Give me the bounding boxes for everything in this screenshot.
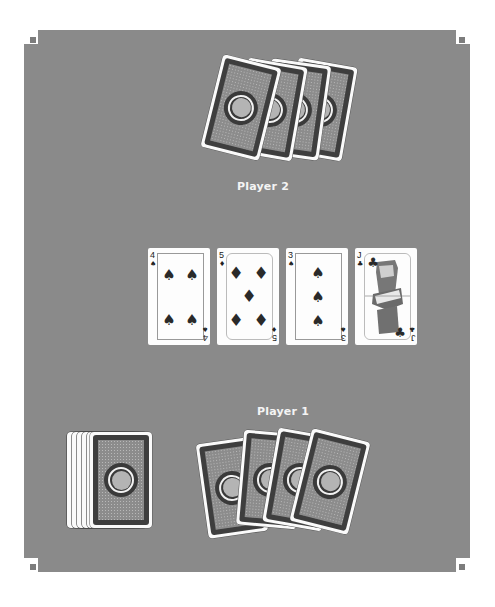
player1-label: Player 1 — [257, 405, 309, 418]
card-rank: 3 — [288, 251, 293, 260]
deck-top-card[interactable] — [90, 432, 152, 528]
table-corner-tr — [459, 37, 465, 43]
spade-icon: ♠ — [202, 325, 208, 332]
community-card-3[interactable]: 3 ♠ ♠ ♠ ♠ 3 ♠ — [286, 248, 348, 345]
diamond-icon: ♦ — [253, 313, 268, 328]
card-rank: 4 — [203, 333, 208, 342]
club-icon: ♣ — [394, 325, 406, 340]
card-rank: J — [411, 333, 416, 342]
spade-icon: ♠ — [311, 266, 324, 281]
diamond-icon: ♦ — [241, 289, 256, 304]
community-card-1[interactable]: 4 ♠ ♠ ♠ ♠ ♠ 4 ♠ — [148, 248, 210, 345]
card-rank: J — [357, 251, 362, 260]
spade-icon: ♠ — [311, 314, 324, 329]
table-corner-tl — [30, 37, 36, 43]
card-rank: 4 — [150, 251, 155, 260]
community-card-4[interactable]: ♣ ♣ J ♣ J ♣ — [355, 248, 417, 345]
spade-icon: ♠ — [150, 261, 156, 268]
club-icon: ♣ — [367, 255, 379, 270]
diamond-icon: ♦ — [271, 325, 277, 332]
diamond-icon: ♦ — [219, 261, 225, 268]
club-icon: ♣ — [409, 325, 415, 332]
spade-icon: ♠ — [162, 268, 175, 283]
card-rank: 5 — [219, 251, 224, 260]
spade-icon: ♠ — [162, 313, 175, 328]
table-corner-bl — [30, 564, 36, 570]
player2-label: Player 2 — [237, 180, 289, 193]
diamond-icon: ♦ — [253, 266, 268, 281]
spade-icon: ♠ — [185, 268, 198, 283]
spade-icon: ♠ — [340, 325, 346, 332]
diamond-icon: ♦ — [228, 266, 243, 281]
community-card-2[interactable]: 5 ♦ ♦ ♦ ♦ ♦ ♦ 5 ♦ — [217, 248, 279, 345]
card-rank: 5 — [272, 333, 277, 342]
diamond-icon: ♦ — [228, 313, 243, 328]
spade-icon: ♠ — [185, 313, 198, 328]
table-corner-br — [459, 564, 465, 570]
club-icon: ♣ — [357, 261, 363, 268]
spade-icon: ♠ — [288, 261, 294, 268]
card-rank: 3 — [341, 333, 346, 342]
spade-icon: ♠ — [311, 290, 324, 305]
